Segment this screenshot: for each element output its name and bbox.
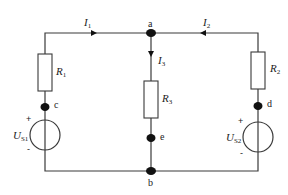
source-us1-plus: + (26, 115, 31, 124)
node-e-dot (147, 134, 156, 142)
node-label-c: c (54, 100, 58, 110)
current-label-i2: I2 (203, 17, 210, 30)
source-us1-minus: - (27, 145, 30, 154)
source-us2-minus: - (240, 149, 243, 158)
circuit-diagram: a b c d e I1 I2 I3 R1 R2 R3 US1 + - US2 … (0, 0, 288, 195)
node-c-dot (41, 103, 50, 111)
source-us2-plus: + (238, 117, 243, 126)
node-label-e: e (160, 132, 164, 142)
resistor-r3 (144, 81, 158, 118)
source-label-us2: US2 (226, 132, 241, 145)
arrow-i2-left-icon (200, 30, 206, 36)
node-d-dot (254, 102, 263, 110)
wire-left-top (45, 33, 151, 54)
wire-left-bottom (45, 150, 151, 171)
resistor-label-r1: R1 (56, 66, 66, 79)
resistor-label-r2: R2 (270, 63, 280, 76)
wire-right-top (151, 33, 258, 52)
resistor-label-r3: R3 (162, 93, 172, 106)
current-label-i1: I1 (84, 17, 91, 30)
node-label-b: b (148, 178, 153, 188)
node-a-dot (146, 29, 156, 37)
current-label-i3: I3 (158, 55, 165, 68)
resistor-r2 (251, 52, 265, 89)
arrow-i3-down-icon (148, 51, 154, 57)
node-b-dot (146, 167, 156, 175)
resistor-r1 (38, 54, 52, 91)
arrow-i1-right-icon (91, 30, 97, 36)
source-label-us1: US1 (13, 130, 28, 143)
node-label-a: a (148, 19, 152, 29)
circuit-drawing (0, 0, 288, 195)
node-label-d: d (267, 99, 272, 109)
